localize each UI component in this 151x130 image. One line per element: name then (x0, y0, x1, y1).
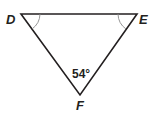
angle-arc-e (118, 14, 126, 29)
triangle-diagram: D E F 54° (0, 0, 151, 130)
angle-arc-d (32, 14, 40, 29)
vertex-label-e: E (139, 12, 148, 27)
vertex-label-f: F (76, 98, 85, 113)
triangle-def (21, 14, 137, 95)
angle-label-f: 54° (72, 67, 90, 81)
vertex-label-d: D (6, 12, 16, 27)
